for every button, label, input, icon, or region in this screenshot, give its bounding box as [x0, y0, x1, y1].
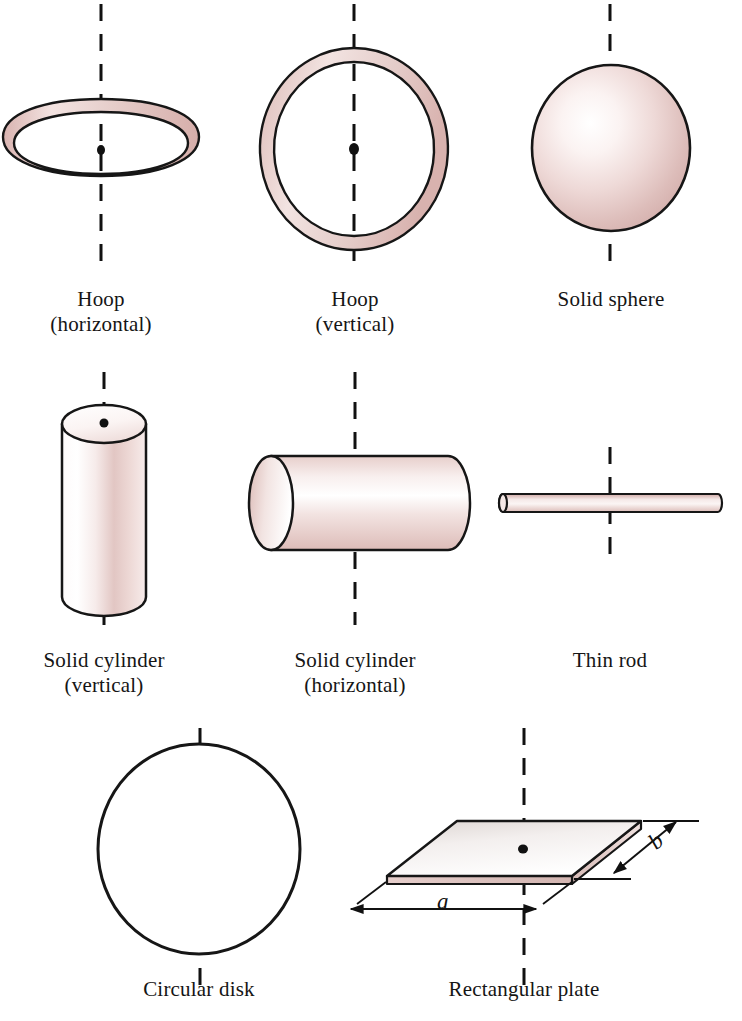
caption-circular-disk: Circular disk [99, 977, 299, 1002]
figure-canvas [0, 0, 742, 1021]
moments-of-inertia-figure: Hoop (horizontal) Hoop (vertical) Solid … [0, 0, 742, 1021]
caption-solid-cylinder-vertical-line2: (vertical) [4, 673, 204, 698]
shape-solid-sphere [532, 65, 690, 231]
caption-solid-sphere-line1: Solid sphere [558, 287, 665, 311]
center-dot-solid-cylinder-vertical [100, 419, 109, 428]
caption-hoop-horizontal: Hoop (horizontal) [1, 287, 201, 337]
caption-rectangular-plate: Rectangular plate [404, 977, 644, 1002]
caption-hoop-vertical: Hoop (vertical) [260, 287, 450, 337]
caption-thin-rod-line1: Thin rod [573, 648, 648, 672]
caption-solid-cylinder-vertical: Solid cylinder (vertical) [4, 648, 204, 698]
shape-circular-disk [98, 744, 300, 954]
caption-solid-cylinder-horizontal-line1: Solid cylinder [294, 648, 415, 672]
center-dot-hoop-horizontal [97, 145, 105, 155]
dimension-label-a: a [437, 890, 449, 913]
caption-hoop-vertical-line2: (vertical) [260, 312, 450, 337]
center-dot-rectangular-plate [518, 845, 528, 854]
caption-hoop-vertical-line1: Hoop [331, 287, 378, 311]
dimension-a-arrow [351, 882, 572, 909]
caption-circular-disk-line1: Circular disk [143, 977, 255, 1001]
caption-solid-sphere: Solid sphere [516, 287, 706, 312]
shape-thin-rod [499, 494, 722, 512]
shape-rectangular-plate [387, 821, 641, 884]
shape-solid-cylinder-vertical [62, 405, 146, 616]
caption-solid-cylinder-horizontal-line2: (horizontal) [255, 673, 455, 698]
caption-rectangular-plate-line1: Rectangular plate [449, 977, 600, 1001]
caption-solid-cylinder-horizontal: Solid cylinder (horizontal) [255, 648, 455, 698]
center-dot-hoop-vertical [349, 143, 359, 155]
caption-hoop-horizontal-line2: (horizontal) [1, 312, 201, 337]
caption-hoop-horizontal-line1: Hoop [77, 287, 124, 311]
caption-solid-cylinder-vertical-line1: Solid cylinder [43, 648, 164, 672]
shape-solid-cylinder-horizontal [249, 456, 470, 550]
caption-thin-rod: Thin rod [535, 648, 685, 673]
